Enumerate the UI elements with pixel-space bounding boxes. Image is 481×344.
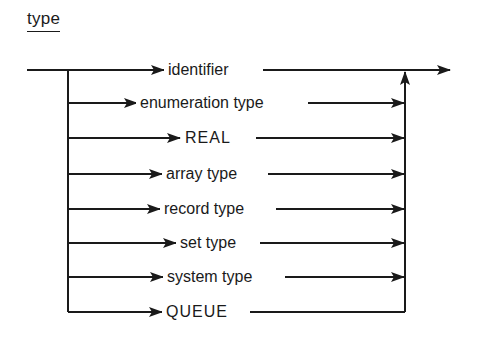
alt-queue: QUEUE — [162, 303, 232, 321]
alt-array-type: array type — [162, 165, 241, 183]
alt-real: REAL — [181, 129, 235, 147]
alt-enumeration-type: enumeration type — [136, 94, 268, 112]
alt-record-type: record type — [160, 200, 248, 218]
alt-identifier: identifier — [164, 61, 232, 79]
alt-system-type: system type — [163, 268, 256, 286]
alt-set-type: set type — [176, 234, 240, 252]
